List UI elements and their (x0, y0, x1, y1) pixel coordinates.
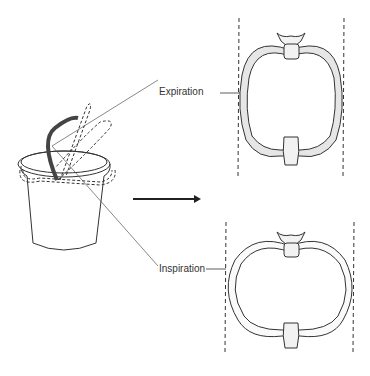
inspiration-rib-illustration (205, 222, 354, 352)
bucket-illustration (18, 80, 158, 266)
diagram-drawing (0, 0, 370, 376)
arrow-icon (133, 195, 201, 203)
inspiration-label: Inspiration (158, 263, 206, 275)
expiration-rib-illustration (220, 18, 344, 178)
bucket-handle-rib-diagram: Expiration Inspiration (0, 0, 370, 376)
expiration-label: Expiration (158, 86, 204, 98)
